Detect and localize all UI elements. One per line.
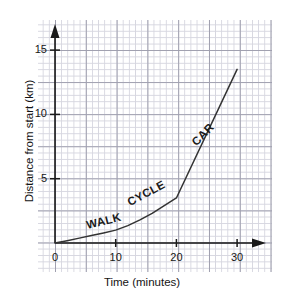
x-tick-label-20: 20 [162, 252, 190, 263]
y-axis-title: Distance from start (km) [23, 46, 35, 236]
x-tick-label-0: 0 [41, 252, 69, 263]
x-axis-arrowhead [252, 239, 266, 248]
x-axis-title: Time (minutes) [0, 276, 284, 288]
x-tick-label-10: 10 [102, 252, 130, 263]
x-tick-label-30: 30 [223, 252, 251, 263]
journey-curve [55, 69, 237, 243]
chart-canvas: 51015 0102030 WALKCYCLECAR Time (minutes… [0, 0, 284, 295]
y-axis-arrowhead [51, 24, 60, 38]
